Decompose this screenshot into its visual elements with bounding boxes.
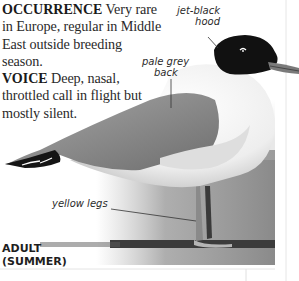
occurrence-paragraph: OCCURRENCE Very rare in Europe, regular … <box>2 1 162 70</box>
occurrence-heading: OCCURRENCE <box>2 2 102 17</box>
label-yellow-legs: yellow legs <box>52 198 108 209</box>
species-description: OCCURRENCE Very rare in Europe, regular … <box>2 1 162 122</box>
age-plumage-label: ADULT (SUMMER) <box>2 242 67 268</box>
label-jet-black-hood: jet-black hood <box>177 5 220 27</box>
label-pale-grey-back: pale grey back <box>142 56 189 78</box>
field-guide-page: OCCURRENCE Very rare in Europe, regular … <box>0 0 299 281</box>
gull-hood <box>214 35 278 75</box>
voice-paragraph: VOICE Deep, nasal, throttled call in fli… <box>2 70 162 122</box>
voice-heading: VOICE <box>2 71 48 86</box>
hood-leader-line <box>208 37 218 48</box>
ground-band <box>110 240 275 248</box>
